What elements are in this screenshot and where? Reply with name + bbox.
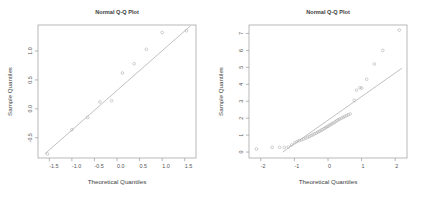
- data-point: [121, 72, 124, 75]
- x-tick-label: 0.0: [117, 163, 125, 169]
- data-point: [110, 99, 113, 102]
- data-point: [271, 146, 274, 149]
- x-tick-label: -1.0: [72, 163, 81, 169]
- plot-frame: [249, 25, 407, 158]
- y-axis-label: Sample Quantiles: [6, 67, 13, 116]
- data-point: [161, 31, 164, 34]
- data-point: [278, 146, 281, 149]
- y-tick-label: 0.5: [27, 76, 33, 84]
- y-tick-label: 7: [238, 32, 244, 35]
- y-tick-label: 1: [238, 134, 244, 137]
- x-axis-label: Theoretical Quantiles: [299, 178, 357, 185]
- data-point: [46, 153, 49, 156]
- data-point: [255, 148, 258, 151]
- y-tick-label: -0.5: [27, 133, 33, 142]
- data-point: [365, 78, 368, 81]
- data-point: [185, 29, 188, 32]
- x-tick-label: -1.5: [49, 163, 58, 169]
- data-point: [98, 101, 101, 104]
- data-point: [355, 89, 358, 92]
- y-tick-label: 0.0: [27, 105, 33, 113]
- plot-frame: [38, 25, 196, 158]
- qq-plot-right-svg: Normal Q-Q Plot-2-1012Theoretical Quanti…: [211, 0, 421, 205]
- plot-title: Normal Q-Q Plot: [306, 9, 350, 15]
- y-tick-label: 1.0: [27, 47, 33, 55]
- data-point: [360, 87, 363, 90]
- data-point: [381, 49, 384, 52]
- data-point: [353, 99, 356, 102]
- y-tick-label: 4: [238, 83, 244, 86]
- qq-plot-left-svg: Normal Q-Q Plot-1.5-1.0-0.50.00.51.01.5T…: [0, 0, 210, 205]
- figure-root: Normal Q-Q Plot-1.5-1.0-0.50.00.51.01.5T…: [0, 0, 421, 205]
- y-tick-label: 0: [238, 151, 244, 154]
- y-tick-label: 6: [238, 49, 244, 52]
- qq-reference-line: [45, 26, 190, 154]
- data-point: [398, 29, 401, 32]
- y-axis-label: Sample Quantiles: [217, 67, 224, 116]
- data-point-group: [46, 29, 188, 155]
- plot-title: Normal Q-Q Plot: [95, 9, 139, 15]
- qq-plot-panel-left: Normal Q-Q Plot-1.5-1.0-0.50.00.51.01.5T…: [0, 0, 210, 205]
- y-tick-label: 5: [238, 66, 244, 69]
- y-tick-label: 2: [238, 117, 244, 120]
- x-tick-label: 2: [395, 163, 398, 169]
- x-tick-label: 1.5: [185, 163, 193, 169]
- x-tick-label: 0.5: [140, 163, 148, 169]
- y-tick-label: 3: [238, 100, 244, 103]
- x-tick-label: -1: [294, 163, 299, 169]
- x-tick-label: -0.5: [94, 163, 103, 169]
- data-point: [133, 62, 136, 65]
- x-tick-label: 1: [362, 163, 365, 169]
- data-point: [373, 63, 376, 66]
- x-axis-label: Theoretical Quantiles: [88, 178, 146, 185]
- data-point-group: [255, 29, 401, 151]
- data-point: [145, 48, 148, 51]
- x-tick-label: 0: [328, 163, 331, 169]
- qq-plot-panel-right: Normal Q-Q Plot-2-1012Theoretical Quanti…: [211, 0, 421, 205]
- x-tick-label: 1.0: [162, 163, 170, 169]
- x-tick-label: -2: [261, 163, 266, 169]
- data-point: [283, 146, 286, 149]
